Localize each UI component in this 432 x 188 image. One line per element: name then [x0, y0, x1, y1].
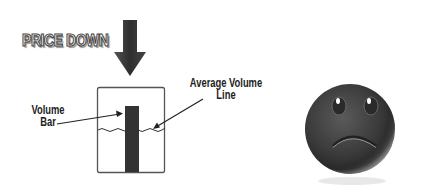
volume-bar	[125, 106, 139, 172]
volume-bar-label: Volume Bar	[25, 104, 72, 128]
down-arrow-icon	[114, 20, 146, 76]
sad-face-icon	[305, 84, 395, 185]
volume-bar-label-line2: Bar	[25, 116, 72, 128]
average-volume-label-line2: Line	[182, 89, 269, 101]
diagram-title: PRICE DOWN	[22, 31, 109, 51]
average-volume-line-label: Average Volume Line	[182, 77, 269, 101]
